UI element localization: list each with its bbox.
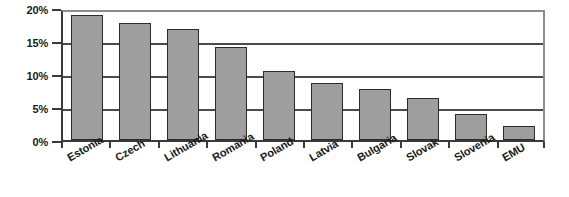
x-axis: EstoniaCzechLithuaniaRomaniaPolandLatvia…	[61, 149, 545, 197]
x-tick-mark	[206, 142, 208, 148]
plot-area	[61, 10, 545, 142]
y-tick-label: 10%	[27, 70, 48, 82]
x-tick-mark	[61, 142, 63, 148]
y-tick-label: 20%	[27, 4, 48, 16]
x-tick-mark	[448, 142, 450, 148]
x-tick-mark	[497, 142, 499, 148]
bar	[311, 83, 343, 140]
bar	[407, 98, 439, 140]
x-tick-mark	[400, 142, 402, 148]
bar	[503, 126, 535, 140]
x-tick-mark	[255, 142, 257, 148]
y-axis: 0%5%10%15%20%	[0, 0, 61, 197]
y-tick-mark	[52, 9, 61, 11]
y-tick-mark	[52, 108, 61, 110]
y-tick-mark	[52, 75, 61, 77]
bar	[119, 23, 151, 140]
y-tick-mark	[52, 42, 61, 44]
y-tick-label: 0%	[33, 136, 49, 148]
x-tick-mark	[109, 142, 111, 148]
bar	[215, 47, 247, 140]
x-tick-mark	[543, 142, 545, 148]
y-tick-mark	[52, 141, 61, 143]
bar	[167, 29, 199, 140]
bars-group	[63, 12, 543, 140]
x-tick-mark	[158, 142, 160, 148]
y-tick-label: 15%	[27, 37, 48, 49]
y-tick-label: 5%	[33, 103, 49, 115]
bar	[359, 89, 391, 140]
bar	[263, 71, 295, 140]
x-tick-mark	[303, 142, 305, 148]
x-tick-mark	[351, 142, 353, 148]
bar-chart: 0%5%10%15%20% EstoniaCzechLithuaniaRoman…	[0, 0, 569, 197]
bar	[71, 15, 103, 140]
